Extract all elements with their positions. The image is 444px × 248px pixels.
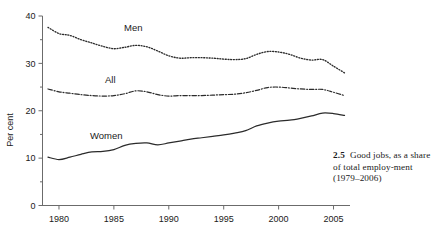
line-chart: 010203040 198019851990199520002005 Per c…	[0, 0, 444, 248]
series-line-men	[48, 27, 345, 72]
y-axis-title: Per cent	[5, 113, 15, 147]
y-axis-ticks: 010203040	[25, 11, 42, 211]
figure-container: 010203040 198019851990199520002005 Per c…	[0, 0, 444, 248]
x-axis-ticks: 198019851990199520002005	[49, 206, 344, 224]
y-tick-label: 10	[25, 153, 35, 163]
y-tick-label: 40	[25, 11, 35, 21]
x-tick-label: 1995	[214, 214, 234, 224]
caption-number: 2.5	[333, 150, 345, 160]
x-tick-label: 2005	[324, 214, 344, 224]
x-tick-label: 1980	[49, 214, 69, 224]
y-tick-label: 20	[25, 106, 35, 116]
y-tick-label: 0	[30, 201, 35, 211]
x-tick-label: 1985	[104, 214, 124, 224]
series-label-men: Men	[124, 22, 142, 33]
x-tick-label: 1990	[159, 214, 179, 224]
figure-caption: 2.5 Good jobs, as a share of total emplo…	[333, 150, 437, 185]
x-tick-label: 2000	[269, 214, 289, 224]
series-label-all: All	[105, 74, 116, 85]
series-label-women: Women	[90, 130, 123, 141]
y-tick-label: 30	[25, 59, 35, 69]
series-line-all	[48, 87, 345, 96]
